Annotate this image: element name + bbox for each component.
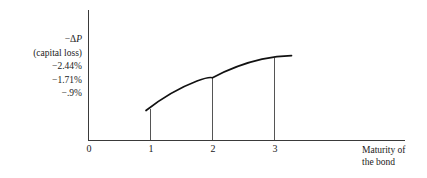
y-tick-label-0: −2.44% <box>4 60 82 74</box>
y-axis-label-symbol: −ΔP <box>4 33 82 47</box>
x-tick-label-3: 3 <box>265 143 285 154</box>
x-axis-title: Maturity of the bond <box>362 144 406 168</box>
x-tick-label-2: 2 <box>203 143 223 154</box>
y-tick-label-1: −1.71% <box>4 74 82 88</box>
y-axis-label-block: −ΔP (capital loss) −2.44% −1.71% −.9% <box>4 33 82 101</box>
capital-loss-curve <box>146 56 292 111</box>
capital-loss-vs-maturity-figure: −ΔP (capital loss) −2.44% −1.71% −.9% 0 … <box>0 0 427 178</box>
x-axis-title-line-2: the bond <box>362 156 406 168</box>
x-tick-label-0: 0 <box>79 143 99 154</box>
x-axis-title-line-1: Maturity of <box>362 144 406 156</box>
y-axis-label-parenthetical: (capital loss) <box>4 47 82 61</box>
x-tick-label-1: 1 <box>141 143 161 154</box>
y-tick-label-2: −.9% <box>4 87 82 101</box>
